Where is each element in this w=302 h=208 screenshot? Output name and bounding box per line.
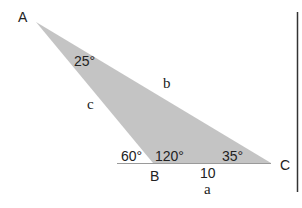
side-a-label: a [204,181,211,197]
vertex-label-c: C [280,157,290,173]
angle-b-interior-label: 120° [155,148,184,164]
triangle-diagram: A B C 25° 60° 120° 35° b c 10 a [0,0,302,208]
vertex-label-a: A [18,9,28,25]
side-a-length: 10 [200,165,216,181]
angle-b-exterior-label: 60° [121,148,142,164]
angle-c-label: 35° [222,148,243,164]
triangle-abc [36,22,271,163]
angle-a-label: 25° [74,53,95,69]
vertex-label-b: B [150,168,159,184]
side-b-label: b [163,75,171,91]
side-c-label: c [87,96,94,112]
